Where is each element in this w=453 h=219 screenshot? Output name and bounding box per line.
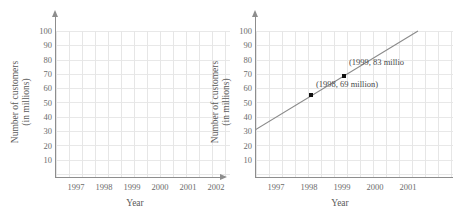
x-axis-title: Year (105, 198, 165, 208)
y-axis-title-line2: (in millions) (221, 32, 232, 172)
y-axis-title-line1: Number of customers (10, 32, 21, 172)
chart-left: 100 90 80 70 60 50 40 30 20 10 1997 1998… (0, 0, 230, 219)
x-axis-right (255, 177, 453, 178)
plot-area-right (256, 16, 453, 177)
x-tick-label: 2000 (146, 183, 174, 192)
y-tick-label: 30 (30, 127, 52, 136)
chart-right: 100 90 80 70 60 50 40 30 20 10 1997 1998… (225, 0, 453, 219)
y-axis-left (55, 16, 56, 177)
y-tick-label: 50 (230, 99, 252, 108)
y-tick-label: 50 (30, 99, 52, 108)
y-tick-label: 20 (30, 142, 52, 151)
x-axis-title: Year (310, 198, 370, 208)
y-tick-label: 60 (30, 84, 52, 93)
y-axis-title-line2: (in millions) (21, 32, 32, 172)
y-axis-title: Number of customers (in millions) (210, 32, 232, 172)
y-tick-label: 90 (30, 41, 52, 50)
point-annotation-1998: (1998, 69 million) (316, 80, 378, 89)
y-tick-label: 30 (230, 127, 252, 136)
x-axis-left (55, 177, 220, 178)
data-point-marker (342, 74, 346, 78)
x-tick-label: 2001 (394, 183, 422, 192)
y-axis-title-line1: Number of customers (210, 32, 221, 172)
x-tick-label: 1998 (90, 183, 118, 192)
y-tick-label: 20 (230, 142, 252, 151)
y-tick-label: 70 (30, 70, 52, 79)
x-tick-label: 1997 (262, 183, 290, 192)
y-tick-label: 100 (30, 27, 52, 36)
x-tick-label: 1999 (328, 183, 356, 192)
y-axis-title: Number of customers (in millions) (10, 32, 32, 172)
x-tick-label: 1999 (118, 183, 146, 192)
y-tick-label: 60 (230, 84, 252, 93)
two-chart-figure: 100 90 80 70 60 50 40 30 20 10 1997 1998… (0, 0, 453, 219)
y-tick-label: 10 (30, 156, 52, 165)
y-tick-label: 70 (230, 70, 252, 79)
point-annotation-1999: (1999, 83 millio (349, 58, 404, 67)
x-tick-label: 1998 (295, 183, 323, 192)
y-tick-label: 10 (230, 156, 252, 165)
x-tick-label: 2001 (174, 183, 202, 192)
y-tick-label: 100 (230, 27, 252, 36)
y-tick-label: 40 (30, 113, 52, 122)
data-point-marker (309, 93, 313, 97)
y-tick-label: 80 (30, 56, 52, 65)
y-axis-arrow-left (52, 10, 58, 17)
y-tick-label: 40 (230, 113, 252, 122)
line-of-best-fit (256, 16, 453, 177)
x-tick-label: 2000 (361, 183, 389, 192)
y-tick-label: 80 (230, 56, 252, 65)
grid-left (56, 31, 230, 177)
y-tick-label: 90 (230, 41, 252, 50)
x-tick-label: 1997 (62, 183, 90, 192)
